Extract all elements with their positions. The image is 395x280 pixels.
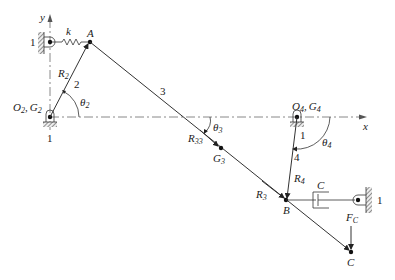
r33-label: R33 (187, 132, 203, 146)
r3-label: R3 (255, 188, 267, 202)
theta2-arc (63, 91, 79, 117)
point-b-label: B (283, 204, 290, 216)
theta4-label: θ4 (322, 136, 331, 150)
ground-label-right: 1 (377, 194, 383, 206)
x-axis-arrow-icon (359, 115, 367, 120)
theta2-label: θ2 (80, 96, 89, 110)
ground-label-left: 1 (30, 36, 36, 48)
link-4-label: 4 (294, 151, 300, 163)
x-axis-label: x (362, 120, 368, 132)
o2-g2-label: O2,G2 (13, 101, 42, 115)
y-axis-arrow-icon (48, 14, 53, 22)
r4-label: R4 (293, 172, 305, 186)
damper-anchor-point (356, 198, 360, 202)
o4-g4-label: O4,G4 (292, 100, 321, 114)
link-3 (90, 42, 349, 250)
ground-label-o4: 1 (300, 129, 306, 141)
ground-o4 (290, 122, 304, 127)
point-c (349, 250, 353, 254)
point-a-label: A (86, 27, 94, 39)
g3-point (219, 146, 223, 150)
linkage-diagram: y x 1 k 1 O2,G2 R2 2 θ2 A 3 R33 θ3 G3 R3… (0, 0, 395, 280)
y-axis-label: y (39, 11, 45, 23)
link-2-label: 2 (74, 78, 80, 90)
r2-label: R2 (57, 67, 69, 81)
ground-wall-left (38, 32, 44, 54)
theta3-label: θ3 (213, 121, 222, 135)
point-c-label: C (347, 256, 355, 268)
damper-label: C (317, 179, 325, 191)
force-label: FC (345, 211, 359, 225)
ground-wall-right (366, 187, 372, 213)
g3-label: G3 (213, 152, 225, 166)
spring-k (52, 39, 88, 45)
ground-o2 (43, 122, 57, 127)
spring-anchor-point (48, 40, 52, 44)
link-3-label: 3 (160, 85, 166, 97)
spring-label: k (66, 25, 72, 37)
theta3-arc (205, 117, 211, 132)
ground-label-o2: 1 (47, 132, 53, 144)
